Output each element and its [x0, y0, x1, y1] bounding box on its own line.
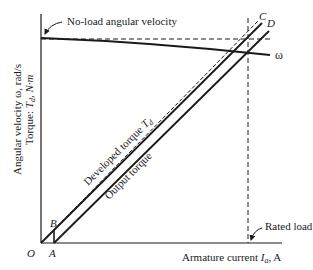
omega-label: ω	[275, 48, 283, 62]
y-axis-label-torque: Torque: Td, N·m	[23, 74, 37, 145]
no-load-arrow	[45, 22, 62, 34]
x-axis-label: Armature current Ia, A	[182, 251, 281, 265]
rated-load-arrow	[251, 228, 262, 240]
point-a-label: A	[48, 247, 56, 259]
angular-velocity-curve	[41, 38, 270, 55]
developed-torque-prefix: Developed torque	[81, 121, 147, 187]
y-axis-label-velocity: Angular velocity ω, rad/s	[11, 64, 23, 175]
point-o-label: O	[27, 247, 35, 259]
point-b-label: B	[50, 217, 57, 229]
point-c-label: C	[259, 10, 267, 22]
motor-characteristics-diagram: O A B C D ω No-load angular velocity Rat…	[0, 0, 313, 270]
no-load-label: No-load angular velocity	[67, 15, 177, 27]
y-axis-torque-suffix: , N·m	[23, 74, 35, 98]
developed-torque-line	[41, 23, 262, 243]
x-axis-label-prefix: Armature current	[182, 251, 261, 263]
point-d-label: D	[266, 17, 275, 29]
rated-load-label: Rated load	[265, 220, 313, 232]
y-axis-torque-prefix: Torque:	[23, 108, 35, 145]
x-axis-label-suffix: , A	[268, 251, 281, 263]
output-torque-line	[54, 31, 269, 243]
